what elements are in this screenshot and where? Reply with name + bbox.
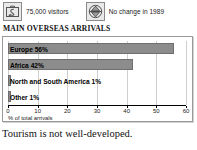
x-axis-title: % of total arrivals xyxy=(8,115,52,121)
infographic-panel: 75,000 visitors No change in 1989 MAIN O… xyxy=(0,0,197,150)
section-heading: MAIN OVERSEAS ARRIVALS xyxy=(3,24,110,33)
caption-text: Tourism is not well-developed. xyxy=(2,128,133,139)
bar-label-africa: Africa 42% xyxy=(8,62,44,69)
gridline-60 xyxy=(186,41,187,105)
x-tick-label: 40 xyxy=(123,108,130,114)
stat-change: No change in 1989 xyxy=(86,2,164,21)
bar-row: North and South America 1% xyxy=(8,73,186,89)
stat-visitors: 75,000 visitors xyxy=(3,2,69,21)
x-tick-label: 20 xyxy=(64,108,71,114)
x-tick-label: 30 xyxy=(94,108,101,114)
bar-row: Other 1% xyxy=(8,89,186,105)
stat-change-label: No change in 1989 xyxy=(109,8,164,15)
x-tick-label: 0 xyxy=(6,108,9,114)
plot-area: Europe 56% Africa 42% North and South Am… xyxy=(8,41,186,105)
suitcase-icon xyxy=(3,2,22,21)
bar-row: Africa 42% xyxy=(8,57,186,73)
no-change-arrows-icon xyxy=(86,2,105,21)
bars: Europe 56% Africa 42% North and South Am… xyxy=(8,41,186,105)
x-tick-label: 60 xyxy=(183,108,190,114)
x-tick-label: 50 xyxy=(153,108,160,114)
stats-row: 75,000 visitors No change in 1989 xyxy=(0,0,197,22)
stat-visitors-label: 75,000 visitors xyxy=(26,8,69,15)
bar-row: Europe 56% xyxy=(8,41,186,57)
bar-label-europe: Europe 56% xyxy=(8,46,48,53)
bar-label-north-and-south-america: North and South America 1% xyxy=(8,78,101,85)
x-tick-label: 10 xyxy=(34,108,41,114)
bar-label-other: Other 1% xyxy=(8,94,39,101)
bar-chart-panel: Europe 56% Africa 42% North and South Am… xyxy=(2,36,193,122)
